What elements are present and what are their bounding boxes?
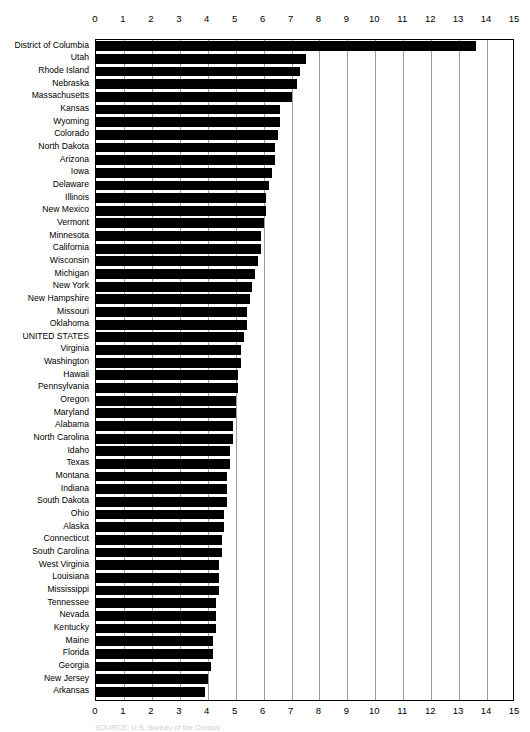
bar-row: [96, 586, 513, 596]
bar: [96, 54, 306, 64]
bar-row: [96, 92, 513, 102]
category-label: New York: [53, 281, 89, 290]
bar-row: [96, 459, 513, 469]
category-label: New Jersey: [44, 674, 89, 683]
bar-row: [96, 484, 513, 494]
bar-row: [96, 370, 513, 380]
bar: [96, 573, 219, 583]
bar: [96, 611, 216, 621]
bar-row: [96, 649, 513, 659]
category-label: Michigan: [55, 269, 89, 278]
bar: [96, 598, 216, 608]
category-label: Maryland: [54, 408, 89, 417]
bar: [96, 396, 236, 406]
bar: [96, 256, 258, 266]
x-tick-label: 15: [509, 705, 520, 717]
bar: [96, 92, 292, 102]
bar-row: [96, 54, 513, 64]
bar-row: [96, 269, 513, 279]
bar: [96, 674, 208, 684]
bar-row: [96, 168, 513, 178]
category-label: Ohio: [71, 509, 89, 518]
category-label: District of Columbia: [15, 41, 90, 50]
x-tick-label: 2: [148, 13, 153, 25]
bar-row: [96, 282, 513, 292]
category-label: Mississippi: [47, 585, 89, 594]
bar-row: [96, 396, 513, 406]
category-label: Connecticut: [44, 534, 89, 543]
x-tick-label: 10: [369, 13, 380, 25]
category-label: North Carolina: [34, 433, 89, 442]
bar: [96, 41, 476, 51]
x-tick-label: 5: [232, 705, 237, 717]
category-label: Rhode Island: [38, 66, 89, 75]
bar-row: [96, 548, 513, 558]
category-label: Hawaii: [63, 370, 89, 379]
category-label: Arkansas: [53, 686, 89, 695]
bar-row: [96, 193, 513, 203]
category-label: Louisiana: [52, 572, 89, 581]
category-label: Arizona: [60, 155, 89, 164]
x-tick-label: 14: [481, 13, 492, 25]
category-label: Nebraska: [52, 79, 89, 88]
bar-row: [96, 294, 513, 304]
bar: [96, 446, 230, 456]
category-label: Indiana: [61, 484, 89, 493]
category-label: Washington: [44, 357, 89, 366]
bar-row: [96, 598, 513, 608]
category-label: Oklahoma: [50, 319, 89, 328]
bar: [96, 193, 266, 203]
x-tick-label: 13: [453, 705, 464, 717]
x-tick-label: 3: [176, 705, 181, 717]
category-label: New Mexico: [42, 205, 89, 214]
bar: [96, 155, 275, 165]
category-label: Massachusetts: [32, 91, 89, 100]
bar-row: [96, 105, 513, 115]
bar: [96, 370, 238, 380]
bar: [96, 408, 236, 418]
bar-row: [96, 143, 513, 153]
bar: [96, 383, 238, 393]
bar: [96, 522, 224, 532]
bar-row: [96, 624, 513, 634]
bar: [96, 168, 272, 178]
bar-row: [96, 244, 513, 254]
x-tick-label: 10: [369, 705, 380, 717]
x-tick-label: 11: [397, 705, 407, 717]
category-label: Pennsylvania: [38, 382, 89, 391]
category-label: South Carolina: [32, 547, 89, 556]
x-tick-label: 11: [397, 13, 407, 25]
bar: [96, 459, 230, 469]
bar: [96, 105, 280, 115]
bar: [96, 636, 213, 646]
bar: [96, 484, 227, 494]
x-tick-label: 0: [92, 705, 97, 717]
bar-row: [96, 332, 513, 342]
bar: [96, 117, 280, 127]
bar-row: [96, 560, 513, 570]
category-label: Montana: [56, 471, 89, 480]
category-label: Alabama: [55, 420, 89, 429]
bar-row: [96, 522, 513, 532]
x-tick-label: 5: [232, 13, 237, 25]
bar: [96, 320, 247, 330]
bar: [96, 687, 205, 697]
bar-row: [96, 510, 513, 520]
bar-row: [96, 497, 513, 507]
x-tick-label: 12: [425, 705, 436, 717]
bar-row: [96, 231, 513, 241]
x-tick-label: 8: [316, 13, 321, 25]
bar-row: [96, 687, 513, 697]
bar-row: [96, 421, 513, 431]
x-tick-label: 3: [176, 13, 181, 25]
bar: [96, 548, 222, 558]
x-tick-label: 7: [288, 705, 293, 717]
category-label: Utah: [71, 53, 89, 62]
bar: [96, 282, 252, 292]
category-label: California: [53, 243, 89, 252]
x-tick-label: 8: [316, 705, 321, 717]
x-tick-label: 1: [120, 705, 125, 717]
x-tick-label: 12: [425, 13, 436, 25]
bar-row: [96, 383, 513, 393]
bar: [96, 560, 219, 570]
